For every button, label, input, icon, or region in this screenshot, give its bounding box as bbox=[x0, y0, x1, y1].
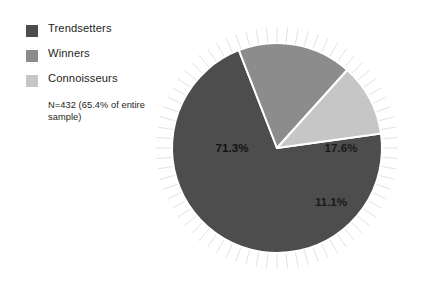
pie-value-label-connoisseurs: 11.1% bbox=[315, 195, 347, 208]
pie-value-label-trendsetters: 71.3% bbox=[216, 141, 249, 154]
pie-chart-figure: Trendsetters Winners Connoisseurs N=432 … bbox=[0, 0, 421, 287]
pie-chart-svg: 71.3%17.6%11.1% bbox=[0, 0, 421, 287]
pie-value-label-winners: 17.6% bbox=[325, 141, 358, 154]
